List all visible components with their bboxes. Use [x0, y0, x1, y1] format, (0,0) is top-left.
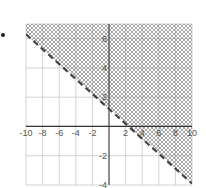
- y-tick-label: 6: [102, 34, 107, 44]
- x-tick-label: 2: [123, 128, 128, 138]
- x-tick-label: -2: [88, 128, 96, 138]
- y-tick-label: 4: [102, 63, 107, 73]
- inequality-graph: -10-8-6-4-2246810 642-2-4: [0, 0, 206, 188]
- x-tick-label: 4: [140, 128, 145, 138]
- x-tick-label: -10: [19, 128, 32, 138]
- x-tick-label: -8: [39, 128, 47, 138]
- x-tick-label: -6: [55, 128, 63, 138]
- y-tick-label: -2: [99, 151, 107, 161]
- x-tick-label: 8: [173, 128, 178, 138]
- x-tick-label: -4: [72, 128, 80, 138]
- x-tick-label: 6: [156, 128, 161, 138]
- y-tick-label: 2: [102, 92, 107, 102]
- y-tick-label: -4: [99, 180, 107, 188]
- x-tick-label: 10: [187, 128, 197, 138]
